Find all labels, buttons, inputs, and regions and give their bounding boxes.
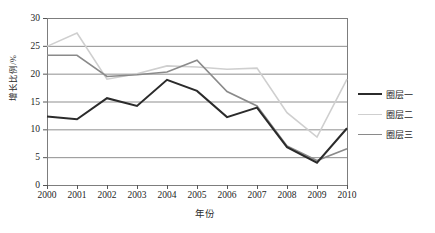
legend-label: 圈层一 (386, 88, 413, 101)
x-axis-tick-label: 2010 (330, 190, 364, 201)
x-axis-tick-label: 2005 (180, 190, 214, 201)
legend-item[interactable]: 圈层二 (358, 104, 435, 124)
x-axis-tick-label: 2007 (240, 190, 274, 201)
x-axis-tick-label: 2009 (300, 190, 334, 201)
chart-figure: 增长比例/% 051015202530 20002001200220032004… (0, 0, 435, 233)
legend-line-swatch (358, 134, 382, 135)
x-axis-tick-label: 2008 (270, 190, 304, 201)
legend-line-swatch (358, 93, 382, 95)
legend-item[interactable]: 圈层一 (358, 84, 435, 104)
x-axis-tick-label: 2002 (90, 190, 124, 201)
x-axis-tick-label: 2004 (150, 190, 184, 201)
legend-item[interactable]: 圈层三 (358, 124, 435, 144)
x-axis-title: 年份 (150, 206, 260, 220)
chart-legend: 圈层一圈层二圈层三 (358, 84, 435, 144)
x-axis-tick-label: 2003 (120, 190, 154, 201)
legend-label: 圈层三 (386, 128, 413, 141)
legend-label: 圈层二 (386, 108, 413, 121)
x-axis-tick-label: 2001 (60, 190, 94, 201)
x-axis-tick-label: 2000 (30, 190, 64, 201)
legend-line-swatch (358, 114, 382, 115)
x-axis-tick-label: 2006 (210, 190, 244, 201)
